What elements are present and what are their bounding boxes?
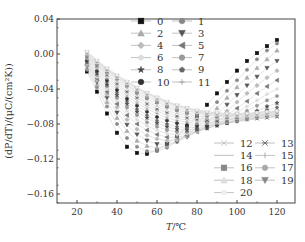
legend-label: 7 [198, 52, 204, 63]
legend-label: 13 [281, 138, 294, 149]
y-tick-label: −0.08 [26, 119, 54, 129]
y-tick-label: −0.12 [26, 154, 54, 164]
y-tick-label: 0.04 [34, 14, 54, 24]
legend-label: 19 [281, 175, 294, 186]
legend-label: 14 [240, 150, 253, 161]
legend-label: 11 [198, 77, 211, 88]
y-tick-label: 0.00 [34, 49, 54, 59]
legend-label: 16 [240, 162, 253, 173]
legend-label: 0 [157, 16, 163, 27]
legend-label: 8 [157, 64, 163, 75]
x-axis-title: T/℃ [166, 221, 187, 232]
x-tick-label: 40 [111, 207, 123, 217]
legend-label: 12 [240, 138, 253, 149]
legend-label: 20 [240, 187, 253, 198]
x-tick-label: 60 [151, 207, 163, 217]
x-tick-label: 80 [191, 207, 203, 217]
legend-label: 4 [157, 40, 163, 51]
legend-label: 17 [281, 162, 294, 173]
y-tick-label: −0.16 [26, 189, 54, 199]
legend-label: 18 [240, 175, 253, 186]
y-axis-title: (dP/dT)/(μC/(cm²K)) [3, 63, 14, 158]
legend-label: 5 [198, 40, 204, 51]
x-tick-label: 120 [268, 207, 285, 217]
chart: 0.040.00−0.04−0.08−0.12−0.16 20406080100… [0, 0, 305, 242]
legend-label: 15 [281, 150, 294, 161]
x-tick-label: 20 [71, 207, 83, 217]
legend-label: 6 [157, 52, 163, 63]
y-tick-label: −0.04 [26, 84, 54, 94]
legend-label: 3 [198, 28, 204, 39]
x-tick-label: 100 [228, 207, 245, 217]
legend-label: 2 [157, 28, 163, 39]
legend-label: 1 [198, 16, 204, 27]
legend-label: 9 [198, 64, 204, 75]
legend-label: 10 [157, 77, 170, 88]
